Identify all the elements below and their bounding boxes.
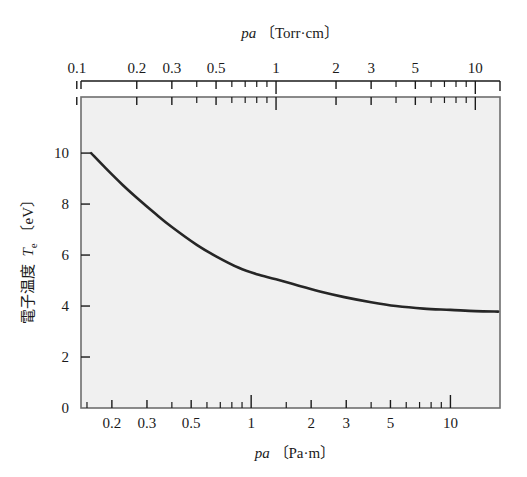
- y-axis-tick-label: 6: [62, 247, 70, 263]
- bottom-axis-tick-label: 1: [247, 415, 255, 431]
- bottom-axis-tick-labels: 0.20.30.5123510: [103, 415, 458, 431]
- y-axis-tick-label: 2: [62, 349, 70, 365]
- bottom-axis-tick-label: 5: [387, 415, 395, 431]
- bottom-axis-title-variable: pa: [254, 445, 270, 461]
- bottom-axis-title: pa 〔Pa·m〕: [254, 445, 335, 461]
- top-axis-title-variable: pa: [240, 25, 256, 41]
- figure-container: 0.10.20.30.5123510 0.20.30.5123510 02468…: [0, 0, 527, 477]
- top-axis-tick-label: 0.3: [162, 60, 181, 76]
- top-axis-tick-label: 2: [332, 60, 340, 76]
- bottom-axis-tick-label: 0.3: [138, 415, 157, 431]
- top-axis-tick-label: 3: [367, 60, 375, 76]
- y-axis-title: 電子温度 Te 〔eV〕: [19, 192, 39, 324]
- electron-temperature-chart: 0.10.20.30.5123510 0.20.30.5123510 02468…: [0, 0, 527, 477]
- bottom-axis-tick-label: 10: [443, 415, 458, 431]
- top-axis-tick-labels: 0.10.20.30.5123510: [67, 60, 482, 76]
- y-axis-title-unit: 〔eV〕: [20, 192, 36, 240]
- top-axis-ticks: [77, 81, 500, 94]
- y-axis-title-group: 電子温度 Te 〔eV〕: [19, 192, 39, 324]
- y-axis-title-japanese: 電子温度: [19, 264, 37, 324]
- top-axis-title-unit: 〔Torr·cm〕: [260, 25, 339, 41]
- top-axis-title: pa 〔Torr·cm〕: [240, 25, 339, 41]
- top-axis-tick-label: 0.5: [207, 60, 226, 76]
- top-axis-tick-label: 5: [412, 60, 420, 76]
- bottom-axis-tick-label: 3: [342, 415, 350, 431]
- top-axis-tick-label: 10: [468, 60, 483, 76]
- bottom-axis-tick-label: 0.2: [103, 415, 122, 431]
- top-axis-tick-label: 0.1: [67, 60, 86, 76]
- bottom-axis-title-unit: 〔Pa·m〕: [274, 445, 336, 461]
- y-axis-tick-label: 10: [54, 145, 69, 161]
- plot-area-background: [81, 97, 500, 408]
- bottom-axis-tick-label: 2: [307, 415, 315, 431]
- bottom-axis-tick-label: 0.5: [182, 415, 201, 431]
- y-axis-tick-label: 4: [62, 298, 70, 314]
- y-axis-tick-label: 0: [62, 400, 70, 416]
- top-axis-tick-label: 1: [272, 60, 280, 76]
- top-axis-tick-label: 0.2: [127, 60, 146, 76]
- y-axis-tick-labels: 0246810: [54, 145, 70, 416]
- y-axis-tick-label: 8: [62, 196, 70, 212]
